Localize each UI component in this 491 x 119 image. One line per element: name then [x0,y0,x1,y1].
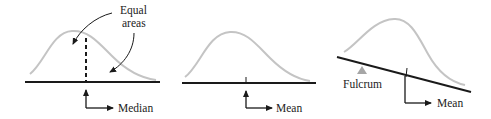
fulcrum-triangle-icon [357,66,367,74]
median-label: Median [118,102,153,114]
panel-median: Equal areas Median [25,4,160,114]
distribution-curve [185,32,310,81]
equal-areas-label-line2: areas [122,17,146,29]
mean-label: Mean [276,102,302,114]
panel-balance: Fulcrum Mean [337,19,471,109]
distribution-diagrams: Equal areas Median Mean Fulcrum Mean [0,0,491,119]
mean-label: Mean [437,97,463,109]
fulcrum-label: Fulcrum [343,78,382,90]
panel-mean: Mean [182,32,316,114]
equal-areas-arrow-left [73,13,112,44]
distribution-curve [30,31,156,80]
equal-areas-label-line1: Equal [120,4,147,17]
